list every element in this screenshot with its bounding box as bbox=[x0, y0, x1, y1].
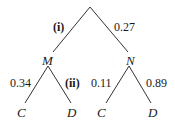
node-m-c: C bbox=[17, 107, 26, 119]
prob-m-c: 0.34 bbox=[10, 77, 31, 89]
prob-root-m: (i) bbox=[53, 21, 64, 33]
node-m: M bbox=[42, 55, 53, 67]
node-n-d: D bbox=[148, 107, 157, 119]
node-n-c: C bbox=[97, 107, 106, 119]
prob-n-c: 0.11 bbox=[91, 77, 112, 89]
prob-root-n: 0.27 bbox=[114, 21, 135, 33]
prob-n-d: 0.89 bbox=[146, 77, 167, 89]
prob-m-d: (ii) bbox=[65, 77, 80, 89]
node-m-d: D bbox=[67, 107, 76, 119]
node-n: N bbox=[126, 55, 135, 67]
